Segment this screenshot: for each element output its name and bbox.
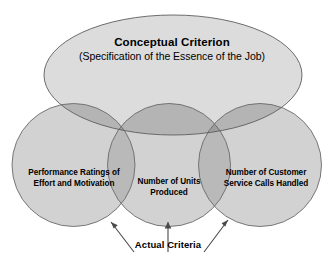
arrow-to-right-circle bbox=[204, 220, 228, 252]
arrow-to-left-circle bbox=[111, 222, 134, 252]
venn-diagram-canvas bbox=[0, 0, 335, 264]
venn-diagram: Conceptual Criterion (Specification of t… bbox=[0, 0, 335, 264]
